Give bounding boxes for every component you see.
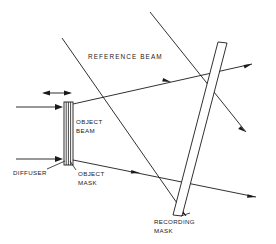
optics-diagram-canvas: REFERENCE BEAM bbox=[0, 0, 276, 244]
object-ray-upper-end-arrowhead bbox=[244, 64, 252, 68]
thickness-measure-left-arrowhead bbox=[42, 90, 50, 95]
object-ray-upper bbox=[73, 64, 252, 104]
diffuser-label: DIFFUSER bbox=[13, 169, 47, 176]
object-ray-lower bbox=[73, 160, 256, 197]
object-mask-label-line1: OBJECT bbox=[78, 170, 105, 177]
lower-illumination-arrowhead bbox=[55, 156, 63, 162]
object-ray-lower-arrowhead bbox=[131, 170, 140, 174]
diffuser-object-mask-assembly bbox=[64, 102, 73, 165]
object-ray-upper-arrowhead bbox=[162, 78, 171, 82]
object-beam-group bbox=[73, 64, 256, 198]
reference-ray-shallow bbox=[150, 12, 246, 132]
upper-illumination-arrowhead bbox=[55, 104, 63, 110]
recording-mask-label-line1: RECORDING bbox=[154, 218, 195, 225]
illumination-arrows-group bbox=[16, 104, 63, 162]
reference-beam-label: REFERENCE BEAM bbox=[88, 53, 163, 60]
object-beam-label-line1: OBJECT bbox=[76, 118, 103, 125]
assembly-thickness-measure bbox=[42, 90, 72, 95]
object-mask-label-line2: MASK bbox=[78, 179, 97, 186]
diffuser-leader-line bbox=[47, 161, 65, 169]
optics-diagram: REFERENCE BEAM bbox=[0, 0, 276, 244]
object-ray-lower-end-arrowhead bbox=[247, 194, 256, 198]
object-beam-label-line2: BEAM bbox=[76, 127, 95, 134]
recording-mask-label-line2: MASK bbox=[154, 227, 173, 234]
thickness-measure-right-arrowhead bbox=[64, 90, 72, 95]
